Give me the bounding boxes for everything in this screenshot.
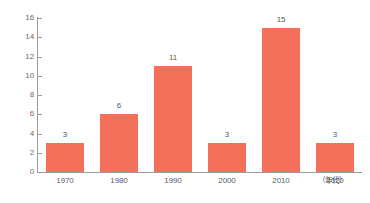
y-axis-tick-label: 2 xyxy=(6,149,34,157)
plot-area: 36113153 xyxy=(38,18,362,172)
bar-chart-figure: 0246810121416 197019801990200020102020 3… xyxy=(0,0,370,203)
x-axis-tick-label: 1980 xyxy=(92,176,146,185)
y-axis-tick-label: 0 xyxy=(6,168,34,176)
y-axis-tick-label: 12 xyxy=(6,53,34,61)
bar xyxy=(316,143,354,172)
bar-value-label: 6 xyxy=(100,102,138,110)
x-axis-line xyxy=(37,172,362,173)
y-axis-tick xyxy=(38,172,42,173)
y-axis-tick-label: 4 xyxy=(6,130,34,138)
bar xyxy=(46,143,84,172)
bar-value-label: 3 xyxy=(208,131,246,139)
y-axis-tick-label: 8 xyxy=(6,91,34,99)
y-axis-tick-label: 6 xyxy=(6,110,34,118)
bar xyxy=(208,143,246,172)
bar-value-label: 3 xyxy=(316,131,354,139)
x-axis-tick-label: 2000 xyxy=(200,176,254,185)
x-axis-tick-label: 1970 xyxy=(38,176,92,185)
x-axis-unit-label: （年代） xyxy=(318,176,346,185)
y-axis-tick-label: 14 xyxy=(6,33,34,41)
y-axis-tick-label: 16 xyxy=(6,14,34,22)
x-axis-tick-label: 1990 xyxy=(146,176,200,185)
y-axis-tick-label: 10 xyxy=(6,72,34,80)
bar-value-label: 11 xyxy=(154,54,192,62)
x-axis-tick-label: 2010 xyxy=(254,176,308,185)
bar xyxy=(100,114,138,172)
bar xyxy=(154,66,192,172)
bar-value-label: 15 xyxy=(262,16,300,24)
bar xyxy=(262,28,300,172)
bar-value-label: 3 xyxy=(46,131,84,139)
